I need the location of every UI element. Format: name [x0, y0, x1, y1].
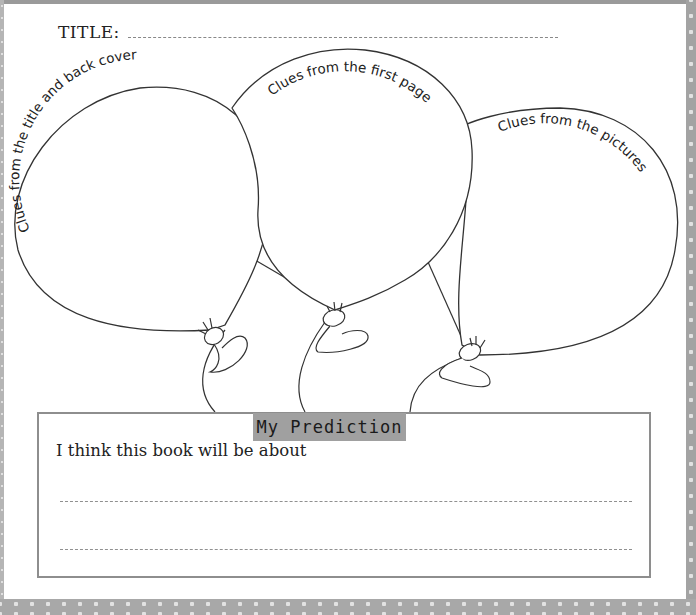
answer-line-1[interactable]: [60, 500, 632, 502]
balloon-middle[interactable]: Clues from the first page: [232, 49, 472, 310]
prediction-prompt: I think this book will be about: [56, 441, 306, 460]
prediction-heading: My Prediction: [253, 413, 406, 441]
balloon-left[interactable]: Clues from the title and back cover: [6, 46, 270, 331]
balloon-right[interactable]: Clues from the pictures: [459, 108, 678, 355]
balloon-knots: [198, 302, 490, 387]
answer-line-2[interactable]: [60, 548, 632, 550]
